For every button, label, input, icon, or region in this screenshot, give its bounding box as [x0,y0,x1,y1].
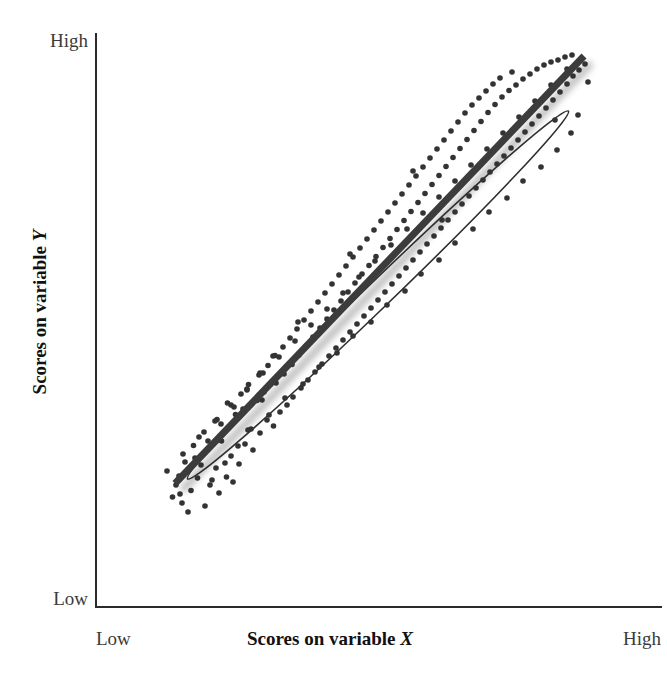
y-axis-high-label: High [50,30,89,51]
regression-line [175,56,584,484]
y-axis-title: Scores on variable Y [29,227,50,394]
x-axis-low-label: Low [96,628,131,649]
x-axis-high-label: High [623,628,662,649]
x-axis-title: Scores on variable X [247,628,414,649]
regression-line-shadow [182,63,591,491]
y-axis-title-variable: Y [29,227,50,241]
svg-text:Scores on variable Y: Scores on variable Y [29,227,50,394]
y-axis-low-label: Low [53,588,88,609]
y-axis-title-text: Scores on variable [29,241,50,394]
x-axis-title-text: Scores on variable [247,628,400,649]
plot-area [164,52,591,515]
axis-lines [96,34,661,607]
scatter-plot-figure: High Low Scores on variable Y Low High S… [0,0,667,675]
x-axis-title-variable: X [399,628,414,649]
